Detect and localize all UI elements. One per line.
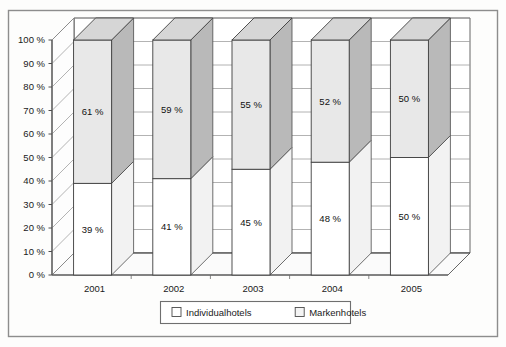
bar-segment-side-face xyxy=(112,18,134,183)
stacked-bar-chart-3d: 39 %61 %41 %59 %45 %55 %48 %52 %50 %50 %… xyxy=(0,0,506,347)
bar-segment-side-face xyxy=(349,140,371,275)
legend-swatch xyxy=(172,308,181,317)
y-axis-tick-label: 30 % xyxy=(23,199,45,210)
bar-segment-side-face xyxy=(191,18,213,179)
chart-legend: IndividualhotelsMarkenhotels xyxy=(161,302,367,324)
legend-label: Individualhotels xyxy=(186,307,252,318)
x-axis-category-label: 2004 xyxy=(322,283,343,294)
bar-value-label: 48 % xyxy=(319,213,341,224)
y-axis-tick-label: 80 % xyxy=(23,81,45,92)
bar-segment-side-face xyxy=(428,136,450,276)
y-axis-tick-label: 90 % xyxy=(23,58,45,69)
legend-label: Markenhotels xyxy=(309,307,366,318)
bar-segment: 55 % xyxy=(232,18,292,169)
bar-value-label: 39 % xyxy=(82,224,104,235)
x-axis-category-label: 2005 xyxy=(401,283,422,294)
y-axis-tick-label: 100 % xyxy=(18,34,45,45)
bar-column: 45 %55 % xyxy=(232,18,292,275)
bar-value-label: 59 % xyxy=(161,104,183,115)
y-axis-tick-label: 0 % xyxy=(29,269,46,280)
bar-value-label: 50 % xyxy=(399,93,421,104)
bar-value-label: 52 % xyxy=(319,96,341,107)
bar-value-label: 55 % xyxy=(240,99,262,110)
bar-segment: 50 % xyxy=(390,18,450,158)
bar-segment: 59 % xyxy=(153,18,213,179)
x-axis-category-label: 2001 xyxy=(84,283,105,294)
bar-column: 41 %59 % xyxy=(153,18,213,275)
y-axis-tick-label: 70 % xyxy=(23,105,45,116)
bar-column: 39 %61 % xyxy=(74,18,134,275)
x-axis-category-label: 2002 xyxy=(163,283,184,294)
bar-column: 50 %50 % xyxy=(390,18,450,275)
bar-segment-side-face xyxy=(428,18,450,158)
y-axis-tick-label: 50 % xyxy=(23,152,45,163)
bar-column: 48 %52 % xyxy=(311,18,371,275)
bar-segment-side-face xyxy=(349,18,371,162)
bar-value-label: 41 % xyxy=(161,221,183,232)
bar-segment-side-face xyxy=(270,18,292,169)
bars-group: 39 %61 %41 %59 %45 %55 %48 %52 %50 %50 % xyxy=(74,18,451,275)
bar-value-label: 61 % xyxy=(82,106,104,117)
bar-segment: 61 % xyxy=(74,18,134,183)
y-axis-tick-label: 60 % xyxy=(23,128,45,139)
bar-segment: 52 % xyxy=(311,18,371,162)
chart-figure: 39 %61 %41 %59 %45 %55 %48 %52 %50 %50 %… xyxy=(0,0,506,347)
y-axis-tick-label: 20 % xyxy=(23,222,45,233)
x-axis-category-label: 2003 xyxy=(242,283,263,294)
legend-swatch xyxy=(295,308,304,317)
y-axis-tick-label: 10 % xyxy=(23,246,45,257)
y-axis-tick-label: 40 % xyxy=(23,175,45,186)
bar-value-label: 50 % xyxy=(399,211,421,222)
bar-value-label: 45 % xyxy=(240,217,262,228)
